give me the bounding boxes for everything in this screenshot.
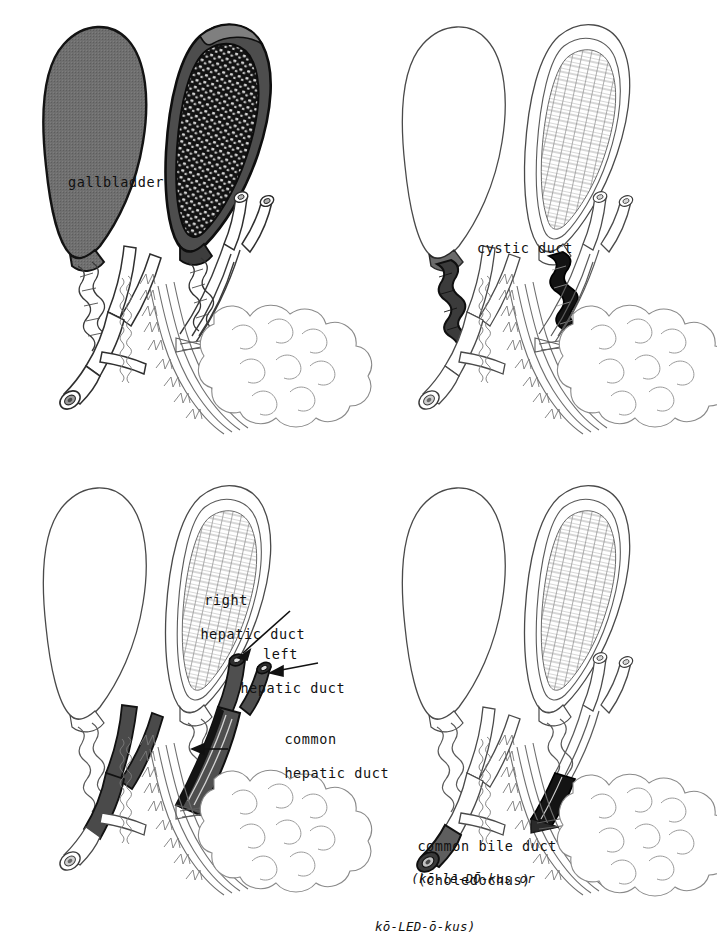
label-pronunciation: (kō-le-DŌ-kus or kō-LED-ō-kus) — [365, 855, 535, 936]
figure-whole-gallbladder-3 — [43, 488, 163, 874]
pronunciation-line-1: (kō-le-DŌ-kus or — [411, 871, 535, 886]
panel-gallbladder: gallbladder — [0, 0, 358, 461]
label-left-hepatic-duct: left hepatic duct — [188, 629, 298, 714]
label-line: common — [284, 731, 336, 747]
panel-bile-duct: common bile duct (choledochus) (kō-le-DŌ… — [359, 461, 717, 922]
pronunciation-line-2: kō-LED-ō-kus) — [365, 919, 535, 935]
gallbladder-shape — [43, 27, 146, 258]
figure-sectioned-gallbladder-2 — [479, 25, 717, 434]
label-gallbladder: gallbladder — [68, 174, 164, 191]
pancreas — [198, 305, 371, 427]
panel-hepatic-ducts: right hepatic duct left hepatic duct com… — [0, 461, 358, 922]
gallbladder-shape — [402, 27, 505, 258]
pancreas — [557, 305, 717, 427]
figure-sectioned-gallbladder-1 — [120, 25, 372, 434]
panel-cystic-duct: cystic duct — [359, 0, 717, 461]
label-line: left — [263, 646, 298, 662]
label-line: right — [204, 592, 248, 608]
figure-whole-gallbladder-4 — [402, 488, 520, 876]
figure-whole-gallbladder-2 — [402, 27, 520, 413]
pancreas — [557, 774, 717, 896]
common-hepatic-duct — [86, 312, 124, 376]
cystic-duct — [188, 262, 201, 331]
gallbladder-shape — [402, 488, 505, 719]
label-line: hepatic duct — [240, 680, 345, 696]
pancreatic-duct-limb — [100, 813, 146, 835]
pancreatic-duct-limb — [459, 352, 505, 374]
gallbladder-shape — [43, 488, 146, 719]
cystic-duct — [78, 727, 95, 812]
label-cystic-duct: cystic duct — [477, 240, 573, 257]
pancreatic-duct-limb — [100, 352, 146, 374]
cystic-duct — [78, 266, 95, 351]
figure-whole-gallbladder-1 — [43, 27, 161, 413]
label-line-common-bile-duct: common bile duct — [417, 838, 557, 854]
cystic-duct — [437, 727, 454, 812]
